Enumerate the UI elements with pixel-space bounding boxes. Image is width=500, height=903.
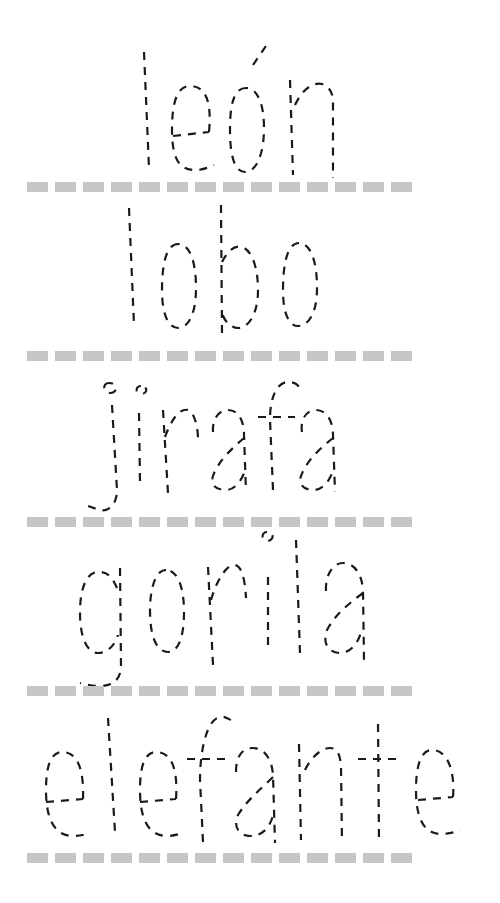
tracing-word-jirafa <box>86 382 335 510</box>
tracing-worksheet: león lobo jirafa gorila elefante <box>0 0 500 903</box>
baseline-2 <box>27 351 412 361</box>
baseline-4 <box>27 686 412 696</box>
tracing-word-leon <box>144 43 333 178</box>
baseline-5 <box>27 853 412 863</box>
baseline-3 <box>27 517 412 527</box>
traced-letters <box>0 0 500 903</box>
tracing-word-gorila <box>80 532 364 686</box>
tracing-word-lobo <box>129 205 317 333</box>
tracing-word-elefante <box>46 717 460 843</box>
baseline-1 <box>27 182 412 192</box>
